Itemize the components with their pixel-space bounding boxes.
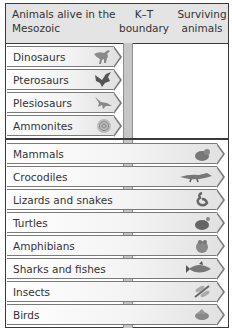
extinct-arrow: Dinosaurs	[7, 46, 114, 67]
row-extinct: Ammonites	[6, 115, 228, 136]
dinosaur-icon	[93, 48, 113, 65]
row-surviving: Sharks and fishes	[6, 258, 228, 279]
arrow-tip	[114, 92, 122, 114]
group-label: Pterosaurs	[13, 73, 69, 87]
surviving-arrow: Turtles	[7, 212, 217, 233]
arrow-tip	[217, 281, 225, 303]
pterosaur-icon	[93, 71, 113, 88]
row-surviving: Crocodiles	[6, 166, 228, 187]
surviving-arrow: Lizards and snakes	[7, 189, 217, 210]
group-label: Amphibians	[13, 239, 75, 253]
arrow-tip	[217, 212, 225, 234]
plesiosaur-icon	[93, 94, 113, 111]
row-extinct: Plesiosaurs	[6, 92, 228, 113]
row-surviving: Birds	[6, 304, 228, 325]
group-label: Dinosaurs	[13, 50, 65, 64]
snake-icon	[192, 191, 212, 208]
group-label: Birds	[13, 308, 39, 322]
row-extinct: Dinosaurs	[6, 46, 228, 67]
extinction-separator	[6, 138, 228, 140]
group-label: Lizards and snakes	[13, 193, 113, 207]
arrow-tip	[217, 166, 225, 188]
row-surviving: Lizards and snakes	[6, 189, 228, 210]
fish-icon	[185, 260, 215, 277]
arrow-tip	[217, 304, 225, 326]
surviving-arrow: Mammals	[7, 143, 217, 164]
group-label: Insects	[13, 285, 50, 299]
header-kt-boundary: K–T boundary	[114, 7, 174, 35]
header-surviving-animals: Surviving animals	[176, 7, 228, 35]
extinct-arrow: Plesiosaurs	[7, 92, 114, 113]
arrow-tip	[217, 189, 225, 211]
arrow-tip	[114, 69, 122, 91]
arrow-tip	[217, 143, 225, 165]
extinct-arrow: Pterosaurs	[7, 69, 114, 90]
diagram-header: Animals alive in the Mesozoic K–T bounda…	[6, 4, 228, 44]
row-surviving: Insects	[6, 281, 228, 302]
group-label: Ammonites	[13, 119, 73, 133]
group-label: Plesiosaurs	[13, 96, 72, 110]
surviving-arrow: Amphibians	[7, 235, 217, 256]
surviving-arrow: Sharks and fishes	[7, 258, 217, 279]
group-label: Turtles	[13, 216, 48, 230]
arrow-tip	[217, 235, 225, 257]
row-surviving: Mammals	[6, 143, 228, 164]
extinct-arrow: Ammonites	[7, 115, 114, 136]
row-surviving: Turtles	[6, 212, 228, 233]
turtle-icon	[192, 214, 212, 231]
row-surviving: Amphibians	[6, 235, 228, 256]
header-mesozoic-animals: Animals alive in the Mesozoic	[12, 7, 124, 35]
group-label: Mammals	[13, 147, 64, 161]
frog-icon	[192, 237, 212, 254]
group-label: Sharks and fishes	[13, 262, 106, 276]
kt-extinction-diagram: Animals alive in the Mesozoic K–T bounda…	[5, 3, 229, 328]
group-label: Crocodiles	[13, 170, 67, 184]
arrow-tip	[114, 46, 122, 68]
arrow-tip	[217, 258, 225, 280]
surviving-arrow: Insects	[7, 281, 217, 302]
bird-icon	[192, 306, 212, 323]
surviving-arrow: Birds	[7, 304, 217, 325]
insect-icon	[192, 283, 212, 300]
ammonite-icon	[93, 117, 113, 134]
row-extinct: Pterosaurs	[6, 69, 228, 90]
arrow-tip	[114, 115, 122, 137]
surviving-arrow: Crocodiles	[7, 166, 217, 187]
crocodile-icon	[179, 168, 213, 185]
mammal-icon	[192, 145, 212, 162]
